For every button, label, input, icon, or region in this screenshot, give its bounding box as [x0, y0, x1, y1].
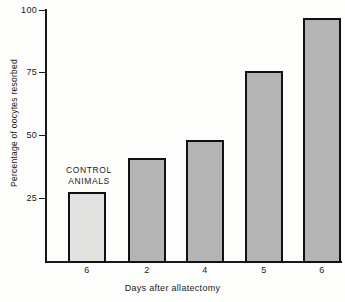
control-annotation-line1: CONTROL: [56, 165, 122, 176]
bar-1[interactable]: [128, 158, 166, 263]
plot-area: 6 2 4 5 6: [0, 0, 345, 302]
bar-3[interactable]: [245, 71, 283, 263]
x-tick-label-0: 6: [63, 265, 111, 275]
x-tick-label-3: 5: [240, 265, 288, 275]
bar-2[interactable]: [186, 140, 224, 263]
control-animals-annotation: CONTROL ANIMALS: [56, 165, 122, 186]
bar-4[interactable]: [303, 18, 341, 263]
x-tick-label-4: 6: [298, 265, 345, 275]
bar-0[interactable]: [68, 192, 106, 263]
control-annotation-line2: ANIMALS: [56, 176, 122, 187]
x-axis-title: Days after allatectomy: [0, 283, 345, 293]
x-tick-label-1: 2: [123, 265, 171, 275]
x-tick-label-2: 4: [181, 265, 229, 275]
bar-chart-figure: 100 75 50 25 Percentage of oocytes resor…: [0, 0, 345, 302]
